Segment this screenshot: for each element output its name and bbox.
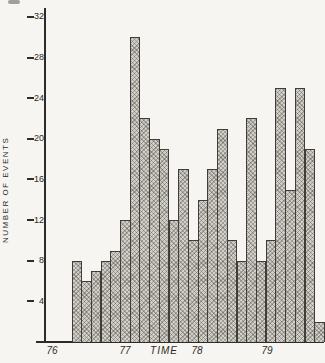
x-tick-label: 78	[182, 345, 212, 356]
y-tick-label: 24	[30, 94, 44, 103]
y-tick-label: 8	[30, 256, 44, 265]
x-tick-label: 79	[252, 345, 282, 356]
x-axis-title: TIME	[142, 345, 186, 356]
y-tick-label: 4	[30, 297, 44, 306]
bar	[314, 322, 325, 342]
bar	[305, 149, 316, 342]
y-tick-label: 12	[30, 216, 44, 225]
y-tick-label: 16	[30, 175, 44, 184]
y-tick-label: 20	[30, 134, 44, 143]
y-tick-label: 32	[30, 12, 44, 21]
y-axis-title: NUMBER OF EVENTS	[1, 130, 15, 250]
scan-artifact	[8, 0, 20, 4]
y-tick-label: 28	[30, 53, 44, 62]
y-axis-line	[44, 8, 46, 343]
x-tick-label: 77	[110, 345, 140, 356]
x-tick-label: 76	[37, 345, 67, 356]
